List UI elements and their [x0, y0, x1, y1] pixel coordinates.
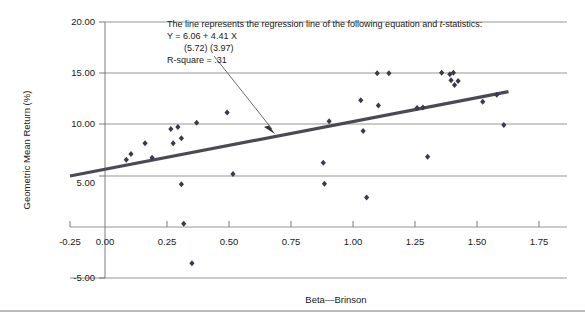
- annotation-line-1: The line represents the regression line …: [167, 19, 482, 29]
- x-tick-label-1.50: 1.50: [468, 236, 487, 247]
- y-tick-label-10: 10.00: [71, 118, 95, 129]
- x-tick-label--0.25: -0.25: [59, 236, 81, 247]
- x-tick-label-0.75: 0.75: [282, 236, 301, 247]
- x-tick-label-0.50: 0.50: [220, 236, 239, 247]
- annotation-line-4: R-square = .31: [167, 55, 227, 65]
- x-tick-label-1.25: 1.25: [406, 236, 425, 247]
- y-tick-label-15: 15.00: [71, 67, 95, 78]
- annotation-line-3: (5.72) (3.97): [184, 43, 234, 53]
- y-tick-label-20: 20.00: [71, 16, 95, 27]
- y-tick-label-5: 5.00: [77, 177, 96, 188]
- y-tick-label-neg5: -5.00: [73, 272, 95, 283]
- annotation-line-1-part-b: -statistics:: [442, 19, 482, 29]
- scatter-chart-figure: 20.00 15.00 10.00 5.00 -5.00 -0.25 0.00 …: [0, 0, 585, 320]
- x-tick-label-1.00: 1.00: [344, 236, 363, 247]
- annotation-line-2: Y = 6.06 + 4.41 X: [167, 31, 237, 41]
- chart-svg: 20.00 15.00 10.00 5.00 -5.00 -0.25 0.00 …: [0, 0, 585, 320]
- x-tick-label-1.75: 1.75: [530, 236, 549, 247]
- x-axis-title: Beta—Brinson: [305, 294, 366, 305]
- x-tick-label-0.25: 0.25: [158, 236, 177, 247]
- x-tick-label-0.00: 0.00: [96, 236, 115, 247]
- y-axis-title: Geometric Mean Return (%): [21, 91, 32, 210]
- annotation-line-1-part-a: The line represents the regression line …: [167, 19, 440, 29]
